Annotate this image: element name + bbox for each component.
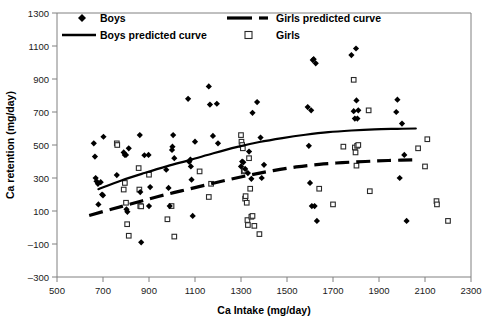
x-tick-label: 2300 — [460, 285, 481, 296]
boys-point — [401, 152, 407, 158]
girls-point — [197, 169, 202, 174]
girls-point — [341, 144, 346, 149]
girls-point — [366, 108, 371, 113]
legend-label-boys-predicted-curve: Boys predicted curve — [100, 29, 207, 41]
y-tick-label: 900 — [33, 74, 49, 85]
girls-point — [368, 189, 373, 194]
girls-point — [239, 133, 244, 138]
boys-point — [100, 134, 106, 140]
boys-point — [188, 177, 194, 183]
girls-point — [247, 156, 252, 161]
girls-point — [252, 224, 257, 229]
boys-point — [393, 109, 399, 115]
boys-point — [137, 132, 143, 138]
y-tick-label: 700 — [33, 107, 49, 118]
girls-point — [115, 143, 120, 148]
girls-point — [250, 214, 255, 219]
boys-point — [207, 101, 213, 107]
legend-label-girls-predicted-curve: Girls predicted curve — [276, 12, 381, 24]
boys-point — [353, 97, 359, 103]
y-axis-ticks: –300–10010030050070090011001300 — [28, 8, 57, 283]
girls-point — [246, 223, 251, 228]
girls-point — [425, 137, 430, 142]
x-tick-label: 700 — [95, 285, 111, 296]
boys-point — [190, 213, 196, 219]
girls-point — [124, 200, 129, 205]
x-tick-label: 2100 — [414, 285, 435, 296]
boys-predicted-curve — [98, 129, 415, 190]
x-tick-label: 1100 — [185, 285, 205, 296]
boys-point — [259, 175, 265, 181]
girls-point — [244, 200, 249, 205]
legend-item-boys: Boys — [78, 12, 126, 24]
legend-label-girls: Girls — [276, 29, 300, 41]
boys-point — [249, 110, 255, 116]
y-tick-label: 1100 — [29, 41, 49, 52]
boys-point — [147, 184, 153, 190]
girls-point — [356, 143, 361, 148]
y-tick-label: –100 — [28, 239, 49, 250]
girls-point — [172, 234, 177, 239]
boys-point — [261, 162, 267, 168]
girls-point — [257, 232, 262, 237]
girls-point — [446, 219, 451, 224]
y-tick-label: 300 — [33, 173, 49, 184]
boys-point — [355, 107, 361, 113]
girls-point — [243, 194, 248, 199]
boys-point — [353, 45, 359, 51]
girls-point — [248, 186, 253, 191]
x-axis-title: Ca Intake (mg/day) — [217, 304, 310, 316]
boys-point — [248, 176, 254, 182]
boys-point — [165, 185, 171, 191]
y-tick-label: 500 — [33, 140, 49, 151]
boys-point — [404, 218, 410, 224]
boys-point — [171, 155, 177, 161]
girls-point — [139, 204, 144, 209]
boys-point — [257, 134, 263, 140]
x-tick-label: 1700 — [322, 285, 343, 296]
girls-point — [423, 164, 428, 169]
boys-point — [91, 140, 97, 146]
boys-point — [114, 172, 120, 178]
boys-point — [397, 175, 403, 181]
boys-point — [138, 239, 144, 245]
girls-point — [136, 166, 141, 171]
girls-point — [121, 187, 126, 192]
boys-point — [254, 99, 260, 105]
boys-point — [126, 145, 132, 151]
boys-point — [146, 203, 152, 209]
boys-point — [307, 180, 313, 186]
girls-point — [125, 222, 130, 227]
girls-data-points — [115, 78, 451, 239]
boys-point — [314, 218, 320, 224]
legend-label-boys: Boys — [100, 12, 126, 24]
x-tick-label: 900 — [141, 285, 157, 296]
boys-point — [351, 108, 357, 114]
x-tick-label: 1300 — [230, 285, 251, 296]
boys-point — [399, 120, 405, 126]
girls-point — [435, 202, 440, 207]
boys-point — [95, 201, 101, 207]
boys-point — [170, 132, 176, 138]
boys-point — [192, 139, 198, 145]
boys-point — [185, 96, 191, 102]
girls-point — [353, 150, 358, 155]
boys-point — [210, 133, 216, 139]
legend-item-boys-predicted-curve: Boys predicted curve — [62, 29, 207, 41]
boys-point — [214, 101, 220, 107]
y-tick-label: 100 — [33, 206, 49, 217]
legend-item-girls: Girls — [245, 29, 300, 41]
chart-canvas: –300–10010030050070090011001300 50070090… — [0, 0, 495, 325]
boys-point — [206, 83, 212, 89]
girls-point — [123, 181, 128, 186]
x-tick-label: 1500 — [276, 285, 297, 296]
girls-point — [317, 186, 322, 191]
girls-point — [165, 217, 170, 222]
girls-point — [331, 202, 336, 207]
legend-item-girls-predicted-curve: Girls predicted curve — [227, 12, 381, 24]
boys-point — [394, 97, 400, 103]
girls-point — [207, 195, 212, 200]
x-axis-ticks: 5007009001100130015001700190021002300 — [49, 277, 482, 296]
chart-legend: Boys Girls predicted curve Boys predicte… — [62, 12, 381, 41]
open-square-icon — [245, 32, 252, 39]
